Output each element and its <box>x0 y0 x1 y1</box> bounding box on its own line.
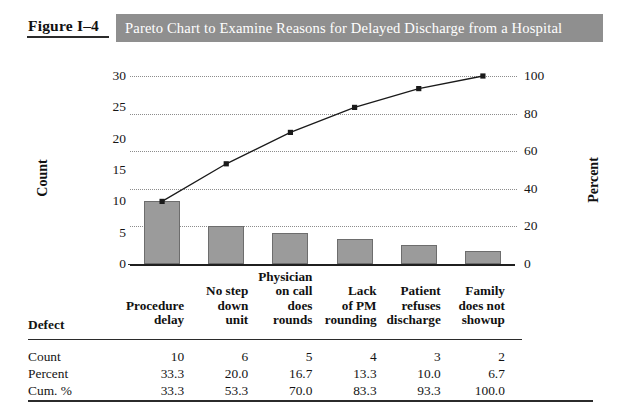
cumulative-percent-line <box>0 52 624 277</box>
table-cell: 20.0 <box>182 366 248 382</box>
table-cell: 10 <box>118 349 184 365</box>
table-rule-top <box>28 339 522 340</box>
table-cell: 33.3 <box>118 383 184 399</box>
table-cell: 6 <box>182 349 248 365</box>
table-cell: 4 <box>311 349 377 365</box>
table-cell: 93.3 <box>375 383 441 399</box>
table-row-label: Percent <box>28 366 68 382</box>
table-cell: 70.0 <box>246 383 312 399</box>
table-cell: 13.3 <box>311 366 377 382</box>
data-point-marker <box>224 161 229 166</box>
table-cell: 3 <box>375 349 441 365</box>
table-cell: 10.0 <box>375 366 441 382</box>
table-cell: 33.3 <box>118 366 184 382</box>
data-point-marker <box>352 105 357 110</box>
table-row-label: Cum. % <box>28 383 72 399</box>
table-rule-bottom <box>28 400 593 402</box>
figure-number: Figure I–4 <box>28 17 99 35</box>
table-cell: 6.7 <box>439 366 505 382</box>
table-cell: 83.3 <box>311 383 377 399</box>
table-cell: 5 <box>246 349 312 365</box>
table-cell: 2 <box>439 349 505 365</box>
table-cell: 100.0 <box>439 383 505 399</box>
table-row-header-defect: Defect <box>28 317 64 333</box>
table-cell: 53.3 <box>182 383 248 399</box>
figure-number-underline <box>27 36 109 38</box>
figure-title: Pareto Chart to Examine Reasons for Dela… <box>116 20 562 37</box>
figure-header: Figure I–4 Pareto Chart to Examine Reaso… <box>0 0 624 52</box>
data-point-marker <box>288 130 293 135</box>
data-point-marker <box>480 73 485 78</box>
data-table: Defect Count1065432Percent33.320.016.713… <box>0 327 624 410</box>
pareto-chart-plot: Count Percent 051015202530 020406080100 <box>0 52 624 277</box>
table-cell: 16.7 <box>246 366 312 382</box>
data-point-marker <box>159 199 164 204</box>
category-axis-labels: ProceduredelayNo stepdownunitPhysicianon… <box>0 266 624 328</box>
table-row-label: Count <box>28 349 61 365</box>
data-point-marker <box>416 86 421 91</box>
category-label: Familydoes notshowup <box>415 284 505 328</box>
figure-title-banner: Pareto Chart to Examine Reasons for Dela… <box>116 14 603 42</box>
